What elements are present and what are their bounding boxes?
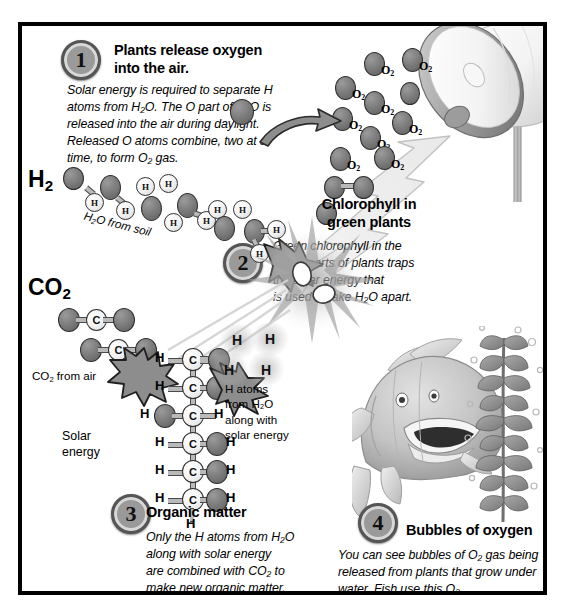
- step-badge-1: 1: [61, 40, 101, 80]
- hydrogen-atom: H: [159, 174, 178, 193]
- o2-label: O2: [391, 157, 404, 172]
- o2-label: O2: [409, 122, 422, 137]
- glucose-right-h: H: [226, 490, 235, 505]
- h-atoms-caption: H atoms from H₂O along with solar energy: [225, 381, 305, 442]
- o2-label: O2: [419, 59, 432, 74]
- free-h-atom: H: [232, 332, 242, 348]
- diagram-frame: 1 Plants release oxygen into the air. So…: [18, 22, 547, 595]
- o2-label: O2: [381, 102, 394, 117]
- oxygen-atom-free: [230, 99, 254, 125]
- solar-energy-label: Solar energy: [62, 428, 100, 460]
- free-h-atom: H: [261, 362, 271, 378]
- step-badge-3: 3: [111, 494, 151, 534]
- step-3-body: Only the H atoms from H₂O along with sol…: [146, 529, 356, 595]
- step-4-heading: Bubbles of oxygen: [406, 522, 532, 540]
- glucose-left-h: H: [155, 434, 164, 449]
- step-1-heading: Plants release oxygen into the air.: [114, 42, 304, 77]
- step-4-body: You can see bubbles of O₂ gas being rele…: [338, 547, 547, 595]
- step-badge-3-number: 3: [126, 503, 137, 525]
- glucose-right-h: H: [226, 462, 235, 477]
- oxygen-atom: [113, 308, 135, 332]
- oxygen-atom: [141, 196, 162, 221]
- co2-label: CO2: [28, 274, 71, 302]
- oxygen-atom: [214, 216, 235, 241]
- co2-molecule: C: [58, 306, 148, 332]
- aquatic-plant-icon: [462, 326, 547, 526]
- free-h-atom: H: [265, 331, 275, 347]
- glucose-left-h: H: [140, 406, 149, 421]
- oxygen-atom: [400, 82, 420, 105]
- o2-label: O2: [349, 118, 362, 133]
- step-badge-1-number: 1: [76, 49, 87, 71]
- oxygen-release-arrow: [258, 108, 343, 153]
- glucose-left-h: H: [155, 378, 164, 393]
- oxygen-atom: [206, 460, 228, 484]
- glucose-left-h: H: [155, 350, 164, 365]
- o2-label: O2: [347, 158, 360, 173]
- co2-from-air-label: CO2 from air: [32, 368, 96, 385]
- oxygen-atom: [63, 167, 84, 190]
- step-3-heading: Organic matter: [146, 504, 246, 522]
- step-1-heading-line1: Plants release oxygen: [114, 42, 304, 60]
- o2-label: O2: [381, 63, 394, 78]
- step-badge-4-number: 4: [373, 512, 384, 534]
- step-1-heading-line2: into the air.: [114, 60, 304, 78]
- free-h-atom: H: [224, 362, 234, 378]
- diagram-canvas: 1 Plants release oxygen into the air. So…: [0, 0, 571, 616]
- hydrogen-atom: H: [164, 213, 183, 232]
- step-badge-4: 4: [358, 503, 398, 543]
- glucose-left-h: H: [155, 490, 164, 505]
- glucose-left-h: H: [155, 462, 164, 477]
- hydrogen-atom: H: [136, 177, 155, 196]
